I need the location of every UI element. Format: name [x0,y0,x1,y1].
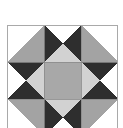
quilt-block [7,25,118,128]
center-square [44,62,81,99]
